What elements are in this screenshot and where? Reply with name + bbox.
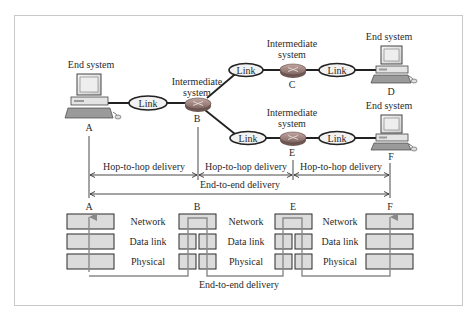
stack-label-e: E bbox=[290, 201, 296, 212]
node-label-c: C bbox=[289, 79, 296, 90]
router-icon bbox=[280, 132, 306, 146]
layer-label-network: Network bbox=[323, 216, 358, 227]
end-to-end-label: End-to-end delivery bbox=[200, 179, 280, 190]
layer-labels: Network Data link Physical Network Data … bbox=[130, 216, 359, 267]
router-c-caption-1: Intermediate bbox=[267, 38, 318, 49]
link-label: Link bbox=[139, 98, 158, 109]
hop-delivery-label-2: Hop-to-hop delivery bbox=[205, 161, 287, 172]
bottom-end-to-end-label: End-to-end delivery bbox=[199, 279, 279, 290]
end-system-d-caption: End system bbox=[366, 31, 413, 42]
node-label-e: E bbox=[289, 147, 295, 158]
stack-a bbox=[67, 214, 114, 269]
layer-label-datalink: Data link bbox=[130, 236, 167, 247]
stack-label-b: B bbox=[194, 201, 201, 212]
link-e-f: Link bbox=[319, 132, 355, 145]
router-icon bbox=[280, 64, 306, 78]
layer-label-datalink: Data link bbox=[322, 236, 359, 247]
link-label: Link bbox=[328, 65, 347, 76]
layer-label-network: Network bbox=[131, 216, 166, 227]
link-a-b: Link bbox=[129, 96, 167, 110]
link-label: Link bbox=[328, 133, 347, 144]
node-label-a: A bbox=[85, 122, 93, 133]
link-b-c: Link bbox=[229, 64, 263, 77]
end-system-a-caption: End system bbox=[68, 59, 115, 70]
router-icon bbox=[185, 98, 211, 112]
node-label-d: D bbox=[387, 86, 394, 97]
router-b-caption-2: system bbox=[183, 87, 211, 98]
hop-delivery-label-3: Hop-to-hop delivery bbox=[300, 161, 382, 172]
layer-label-physical: Physical bbox=[131, 256, 165, 267]
router-c-caption-2: system bbox=[278, 49, 306, 60]
hop-delivery-label-1: Hop-to-hop delivery bbox=[103, 161, 185, 172]
stack-label-a: A bbox=[85, 201, 93, 212]
layer-label-network: Network bbox=[229, 216, 264, 227]
link-label: Link bbox=[237, 65, 256, 76]
network-layer-delivery-diagram: End system A Link Intermediate system B … bbox=[0, 0, 475, 316]
end-system-f-caption: End system bbox=[366, 100, 413, 111]
link-b-e: Link bbox=[230, 132, 266, 145]
node-label-b: B bbox=[194, 113, 201, 124]
link-label: Link bbox=[239, 133, 258, 144]
stack-label-f: F bbox=[387, 201, 393, 212]
router-b-caption-1: Intermediate bbox=[172, 76, 223, 87]
layer-label-physical: Physical bbox=[229, 256, 263, 267]
layer-label-datalink: Data link bbox=[228, 236, 265, 247]
layer-label-physical: Physical bbox=[323, 256, 357, 267]
node-label-f: F bbox=[388, 151, 394, 162]
link-c-d: Link bbox=[319, 64, 355, 77]
router-e-caption-1: Intermediate bbox=[267, 107, 318, 118]
router-e-caption-2: system bbox=[278, 118, 306, 129]
